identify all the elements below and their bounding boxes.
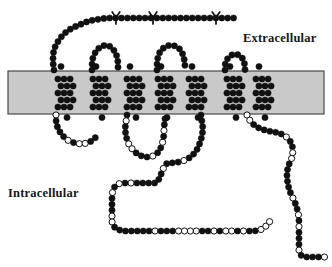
helix-residue <box>227 97 233 103</box>
helix-residue <box>130 104 136 110</box>
helix-residue <box>55 90 61 96</box>
residue-dot <box>284 178 290 184</box>
helix-residue <box>105 83 111 89</box>
residue-dot <box>109 195 115 201</box>
helix-residue <box>64 114 70 120</box>
helix-residue <box>67 104 73 110</box>
residue-dot <box>144 154 150 160</box>
residue-dot <box>223 228 229 234</box>
helix-residue <box>127 63 133 69</box>
residue-dot <box>117 227 123 233</box>
helix-residue <box>192 104 198 110</box>
residue-dot <box>199 228 205 234</box>
residue-dot <box>115 64 121 70</box>
helix-residue <box>233 114 239 120</box>
residue-dot <box>205 228 211 234</box>
residue-dot <box>122 129 128 135</box>
helix-residue <box>224 104 230 110</box>
residue-dot <box>155 55 161 61</box>
helix-residue <box>198 90 204 96</box>
helix-residue <box>130 76 136 82</box>
helix-residue <box>70 97 76 103</box>
helix-residue <box>189 97 195 103</box>
helix-residue <box>164 97 170 103</box>
chain-il1 <box>53 112 98 147</box>
helix-residue <box>265 104 271 110</box>
residue-dot <box>183 15 189 21</box>
helix-residue <box>61 76 67 82</box>
helix-residue <box>67 90 73 96</box>
residue-dot <box>170 228 176 234</box>
residue-dot <box>109 207 115 213</box>
residue-dot <box>217 228 223 234</box>
residue-dot <box>122 228 128 234</box>
helix-residue <box>127 83 133 89</box>
helix-residue <box>236 104 242 110</box>
helix-residue <box>195 83 201 89</box>
helix-residue <box>61 104 67 110</box>
helix-residue <box>236 90 242 96</box>
helix-residue <box>136 104 142 110</box>
residue-dot <box>89 17 95 23</box>
residue-dot <box>109 189 115 195</box>
helix-residue <box>256 83 262 89</box>
residue-dot <box>310 254 316 260</box>
helix-residue <box>64 97 70 103</box>
helix-residue <box>124 90 130 96</box>
helix-residue <box>201 97 207 103</box>
chain-el3 <box>222 52 248 73</box>
residue-dot <box>241 61 247 67</box>
helix-residue <box>58 63 64 69</box>
residue-chains <box>50 15 328 260</box>
helix-residue <box>233 97 239 103</box>
helix-residue <box>161 104 167 110</box>
helix-residue <box>99 83 105 89</box>
helix-residue <box>130 90 136 96</box>
helix-residue <box>230 76 236 82</box>
helix-residue <box>259 104 265 110</box>
helix-residue <box>124 104 130 110</box>
helix-residue <box>192 76 198 82</box>
helix-residue <box>227 63 233 69</box>
helix-residue <box>96 104 102 110</box>
helix-residue <box>265 76 271 82</box>
residue-dot <box>122 180 128 186</box>
helix-residue <box>158 97 164 103</box>
residue-dot <box>187 228 193 234</box>
residue-dot <box>292 200 298 206</box>
helix-residue <box>70 83 76 89</box>
helix-residue <box>158 63 164 69</box>
residue-dot <box>200 124 206 130</box>
residue-dot <box>158 228 164 234</box>
residue-dot <box>289 144 295 150</box>
residue-dot <box>53 112 59 118</box>
residue-dot <box>321 254 327 260</box>
helix-residue <box>167 76 173 82</box>
helix-residue <box>102 104 108 110</box>
helix-residue <box>192 90 198 96</box>
helix-residue <box>133 97 139 103</box>
residue-dot <box>199 129 205 135</box>
helix-residue <box>93 83 99 89</box>
chain-n-terminal-extracellular <box>50 15 237 73</box>
residue-dot <box>109 201 115 207</box>
residue-dot <box>118 15 124 21</box>
helix-residue <box>262 114 268 120</box>
residue-dot <box>50 61 56 67</box>
residue-dot <box>138 153 144 159</box>
residue-dot <box>140 228 146 234</box>
intracellular-label: Intracellular <box>8 186 79 201</box>
residue-dot <box>266 219 272 225</box>
helix-residue <box>262 83 268 89</box>
helix-residue <box>67 76 73 82</box>
helix-residue <box>230 90 236 96</box>
helix-residue <box>230 104 236 110</box>
residue-dot <box>211 228 217 234</box>
residue-dot <box>109 213 115 219</box>
residue-dot <box>198 135 204 141</box>
helix-residue <box>224 90 230 96</box>
helix-residue <box>256 97 262 103</box>
residue-dot <box>296 241 302 247</box>
residue-dot <box>76 141 82 147</box>
residue-dot <box>304 254 310 260</box>
